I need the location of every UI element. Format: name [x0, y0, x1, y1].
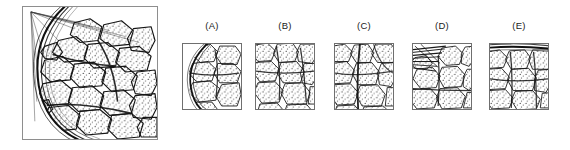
option-a-drawing — [183, 44, 241, 109]
option-e-label: (E) — [489, 20, 549, 32]
option-b-drawing — [256, 44, 314, 109]
option-d[interactable]: (D) — [412, 43, 472, 110]
option-c-drawing — [335, 44, 393, 109]
option-e[interactable]: (E) — [489, 43, 549, 110]
option-e-thumbnail[interactable] — [489, 43, 549, 110]
option-c-label: (C) — [334, 20, 394, 32]
option-d-thumbnail[interactable] — [412, 43, 472, 110]
option-d-drawing — [413, 44, 471, 109]
option-b-label: (B) — [255, 20, 315, 32]
option-b-thumbnail[interactable] — [255, 43, 315, 110]
option-a-label: (A) — [182, 20, 242, 32]
option-a[interactable]: (A) — [182, 43, 242, 110]
option-c-thumbnail[interactable] — [334, 43, 394, 110]
option-c[interactable]: (C) — [334, 43, 394, 110]
main-reference-image[interactable] — [22, 6, 158, 140]
option-d-label: (D) — [412, 20, 472, 32]
histology-figure: (A) — [0, 0, 570, 150]
option-a-thumbnail[interactable] — [182, 43, 242, 110]
option-b[interactable]: (B) — [255, 43, 315, 110]
option-e-drawing — [490, 44, 548, 109]
main-image-drawing — [23, 7, 157, 139]
